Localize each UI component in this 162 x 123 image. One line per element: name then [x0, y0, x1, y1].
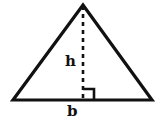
triangle-figure-svg	[0, 0, 162, 123]
base-label: b	[67, 104, 78, 119]
triangle-outline	[13, 5, 152, 100]
triangle-diagram: h b	[0, 0, 162, 123]
height-label: h	[65, 54, 76, 69]
right-angle-icon	[83, 89, 94, 100]
